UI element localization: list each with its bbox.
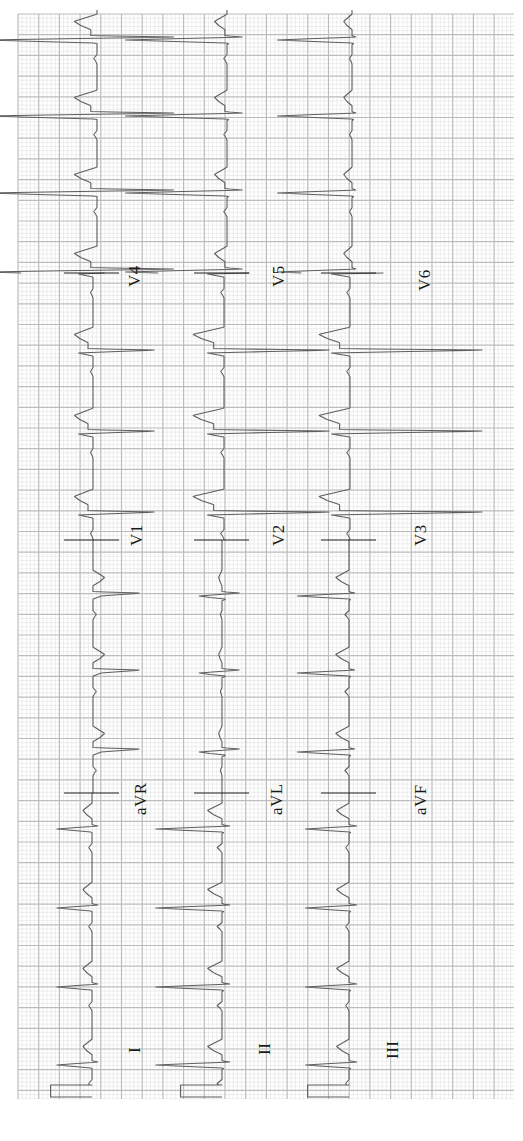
lead-label-v2: V2 bbox=[270, 524, 287, 546]
lead-label-v3: V3 bbox=[412, 524, 429, 546]
lead-label-v5: V5 bbox=[270, 265, 287, 287]
lead-label-avf: aVF bbox=[412, 784, 429, 815]
lead-separators bbox=[64, 273, 376, 793]
lead-label-avl: aVL bbox=[268, 783, 285, 815]
lead-label-i: I bbox=[126, 1047, 143, 1053]
ecg-traces bbox=[0, 10, 482, 1097]
trace-v3 bbox=[319, 273, 482, 540]
trace-v2 bbox=[193, 273, 329, 540]
lead-label-iii: III bbox=[384, 1041, 401, 1059]
lead-label-v4: V4 bbox=[126, 265, 143, 287]
lead-label-avr: aVR bbox=[132, 782, 149, 815]
lead-label-v6: V6 bbox=[416, 269, 433, 291]
ecg-chart bbox=[0, 0, 523, 1141]
lead-label-v1: V1 bbox=[128, 524, 145, 546]
lead-label-ii: II bbox=[256, 1043, 273, 1055]
